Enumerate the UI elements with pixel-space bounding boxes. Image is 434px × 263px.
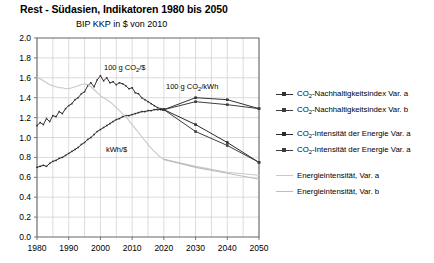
series-marker — [100, 129, 102, 131]
series-marker — [97, 79, 99, 81]
series-marker — [71, 151, 73, 153]
series-marker — [258, 107, 261, 110]
series-marker — [100, 75, 102, 77]
series-marker — [116, 119, 118, 121]
series-marker — [226, 141, 229, 144]
series-marker — [87, 139, 89, 141]
series-marker — [106, 77, 108, 79]
series-marker — [226, 98, 229, 101]
series-marker — [135, 92, 137, 94]
legend-item-label: Energieintensität, Var. b — [297, 187, 379, 196]
y-axis-label: 0.8 — [19, 152, 31, 162]
series-marker — [43, 124, 45, 126]
series-marker — [81, 93, 83, 95]
legend-item-label: CO2-Nachhaltigkeitsindex Var. a — [297, 89, 408, 99]
series-marker — [138, 112, 140, 114]
series-marker — [157, 109, 159, 111]
series-marker — [62, 113, 64, 115]
series-marker — [119, 118, 121, 120]
series-marker — [74, 149, 76, 151]
series-marker — [144, 99, 146, 101]
x-axis-label: 1980 — [28, 243, 47, 253]
series-marker — [103, 127, 105, 129]
series-marker — [46, 166, 48, 168]
series-marker — [43, 165, 45, 167]
x-axis-label: 2000 — [91, 243, 110, 253]
series-marker — [49, 121, 51, 123]
series-marker — [97, 131, 99, 133]
series-marker — [163, 108, 166, 111]
y-axis-label: 1.0 — [19, 133, 31, 143]
legend-item-label: CO2-Intensität der Energie Var. a — [297, 129, 411, 139]
series-marker — [65, 108, 67, 110]
annot-kwh-per-dollar: kWh/$ — [106, 145, 128, 154]
series-marker — [194, 100, 197, 103]
chart-container: Rest - Südasien, Indikatoren 1980 bis 20… — [0, 0, 434, 263]
series-marker — [65, 155, 67, 157]
y-axis-label: 2.0 — [19, 33, 31, 43]
series-marker — [122, 83, 124, 85]
y-axis-label: 1.4 — [19, 93, 31, 103]
series-marker — [49, 163, 51, 165]
series-marker — [144, 111, 146, 113]
series-marker — [84, 91, 86, 93]
series-marker — [141, 97, 143, 99]
legend-item-label: Energieintensität, Var. a — [297, 171, 379, 180]
series-marker — [150, 110, 152, 112]
y-axis-label: 0.6 — [19, 172, 31, 182]
series-marker — [112, 81, 114, 83]
x-axis-label: 2030 — [186, 243, 205, 253]
series-marker — [128, 88, 130, 90]
series-marker — [93, 86, 95, 88]
x-axis-label: 2050 — [250, 243, 269, 253]
legend-item-label: CO2-Nachhaltigkeitsindex Var. b — [297, 105, 408, 115]
series-marker — [226, 144, 229, 147]
series-marker — [147, 101, 149, 103]
series-marker — [74, 99, 76, 101]
legend-co2-intensity-a[interactable]: CO2-Intensität der Energie Var. a — [276, 128, 411, 140]
legend-line-swatch — [276, 150, 293, 151]
y-axis-label: 1.6 — [19, 73, 31, 83]
series-marker — [77, 147, 79, 149]
series-marker — [90, 82, 92, 84]
x-axis-label: 2010 — [123, 243, 142, 253]
series-marker — [68, 153, 70, 155]
series-marker — [81, 144, 83, 146]
series-marker — [71, 103, 73, 105]
legend-co2-index-a[interactable]: CO2-Nachhaltigkeitsindex Var. a — [276, 88, 408, 100]
series-marker — [93, 134, 95, 136]
series-marker — [68, 105, 70, 107]
legend-energy-intensity-b[interactable]: Energieintensität, Var. b — [276, 185, 379, 197]
series-marker — [36, 167, 38, 169]
series-marker — [39, 122, 41, 124]
series-marker — [128, 115, 130, 117]
x-axis-label: 1990 — [59, 243, 78, 253]
x-axis-label: 2040 — [218, 243, 237, 253]
series-marker — [226, 103, 229, 106]
series-marker — [84, 142, 86, 144]
y-axis-label: 1.2 — [19, 113, 31, 123]
series-marker — [106, 125, 108, 127]
legend-co2-intensity-b[interactable]: CO2-Intensität der Energie Var. a — [276, 144, 411, 156]
series-marker — [55, 160, 57, 162]
series-marker — [119, 82, 121, 84]
annot-co2-per-kwh: 100 g CO2/kWh — [166, 82, 218, 92]
legend-line-swatch — [276, 134, 293, 135]
series-marker — [62, 157, 64, 159]
series-marker — [157, 107, 159, 109]
series-marker — [52, 161, 54, 163]
series-marker — [55, 116, 57, 118]
series-marker — [131, 114, 133, 116]
legend-line-swatch — [276, 94, 293, 95]
series-marker — [131, 87, 133, 89]
series-marker — [58, 111, 60, 113]
legend-item-label: CO2-Intensität der Energie Var. a — [297, 145, 411, 155]
series-marker — [77, 97, 79, 99]
y-axis-label: 0.4 — [19, 192, 31, 202]
legend-co2-index-b[interactable]: CO2-Nachhaltigkeitsindex Var. b — [276, 104, 408, 116]
legend-energy-intensity-a[interactable]: Energieintensität, Var. a — [276, 169, 379, 181]
series-marker — [194, 123, 197, 126]
legend-line-swatch — [276, 110, 293, 111]
series-marker — [116, 84, 118, 86]
series-marker — [138, 93, 140, 95]
